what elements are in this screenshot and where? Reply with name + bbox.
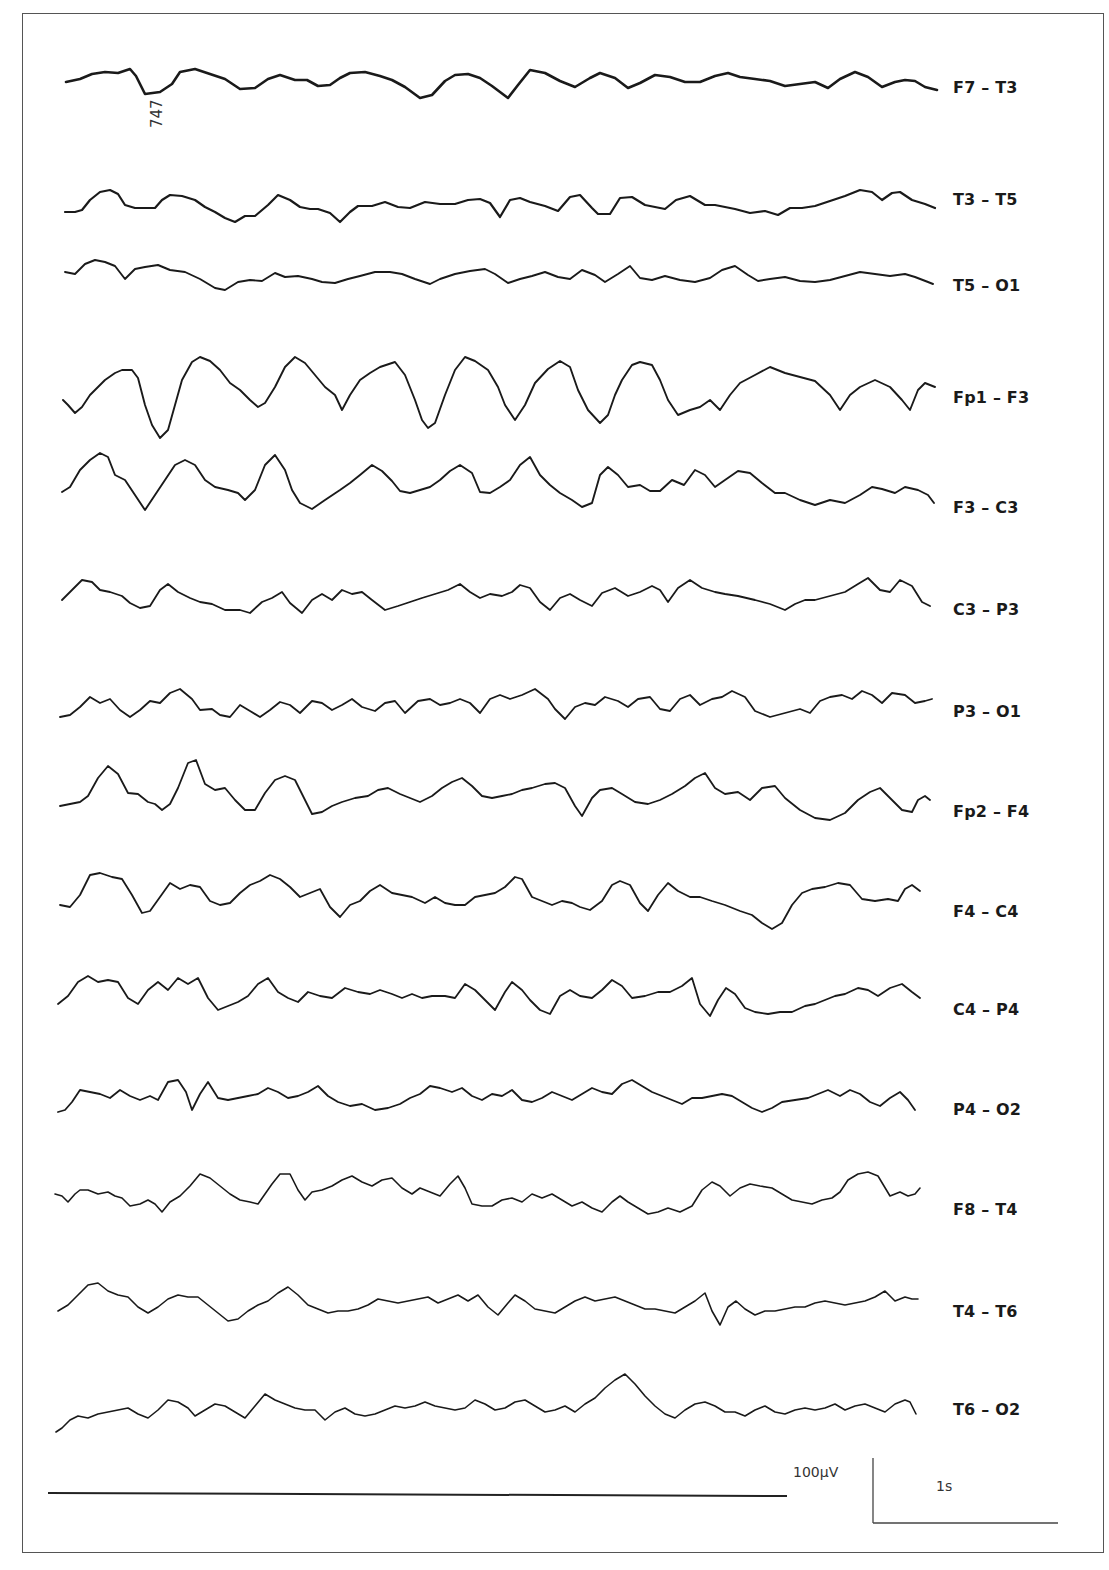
eeg-trace — [58, 1080, 915, 1112]
eeg-trace — [65, 260, 933, 290]
eeg-trace — [60, 689, 932, 719]
channel-label: Fp2 – F4 — [953, 802, 1029, 821]
eeg-trace — [58, 976, 920, 1016]
channel-label: F4 – C4 — [953, 902, 1018, 921]
eeg-trace — [56, 1374, 916, 1432]
event-marker-label: 747 — [148, 99, 166, 128]
eeg-trace — [58, 1283, 918, 1325]
time-scale-label: 1s — [936, 1478, 952, 1494]
eeg-trace — [60, 760, 930, 820]
eeg-trace — [65, 190, 935, 222]
eeg-plot — [0, 0, 1109, 1570]
channel-label: T3 – T5 — [953, 190, 1018, 209]
eeg-trace — [55, 1172, 920, 1214]
channel-label: F7 – T3 — [953, 78, 1018, 97]
eeg-trace — [62, 578, 930, 613]
channel-label: P4 – O2 — [953, 1100, 1021, 1119]
eeg-trace — [62, 453, 934, 510]
channel-label: F8 – T4 — [953, 1200, 1018, 1219]
eeg-trace — [66, 69, 937, 98]
eeg-traces — [55, 69, 937, 1432]
channel-label: T6 – O2 — [953, 1400, 1020, 1419]
channel-label: C3 – P3 — [953, 600, 1019, 619]
amplitude-scale-label: 100µV — [793, 1464, 838, 1480]
channel-label: T4 – T6 — [953, 1302, 1018, 1321]
eeg-trace — [60, 873, 920, 929]
channel-label: Fp1 – F3 — [953, 388, 1029, 407]
channel-label: F3 – C3 — [953, 498, 1018, 517]
channel-label: C4 – P4 — [953, 1000, 1019, 1019]
channel-label: P3 – O1 — [953, 702, 1021, 721]
amplitude-scale-bar — [48, 1493, 787, 1496]
eeg-trace — [63, 357, 935, 438]
channel-label: T5 – O1 — [953, 276, 1020, 295]
